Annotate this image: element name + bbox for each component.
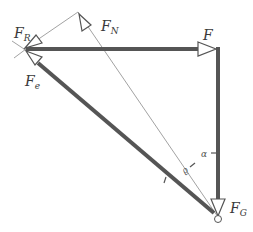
label-FR: FR bbox=[13, 25, 31, 43]
label-FN: FN bbox=[100, 18, 120, 36]
label-F: F bbox=[202, 27, 214, 43]
rho-tick bbox=[190, 163, 195, 167]
force-lines bbox=[26, 47, 218, 213]
label-alpha: α bbox=[201, 149, 207, 159]
label-FG: FG bbox=[229, 200, 247, 218]
construction-lines bbox=[12, 12, 218, 217]
arrowheads bbox=[25, 14, 225, 216]
force-Fe-line bbox=[38, 63, 214, 213]
force-diagram: FR FN F Fe FG α ϱ bbox=[0, 0, 253, 232]
arrow-F-icon bbox=[198, 42, 216, 56]
support-point-icon bbox=[215, 216, 222, 223]
Fe-tick bbox=[164, 177, 166, 183]
label-Fe: Fe bbox=[24, 73, 40, 91]
